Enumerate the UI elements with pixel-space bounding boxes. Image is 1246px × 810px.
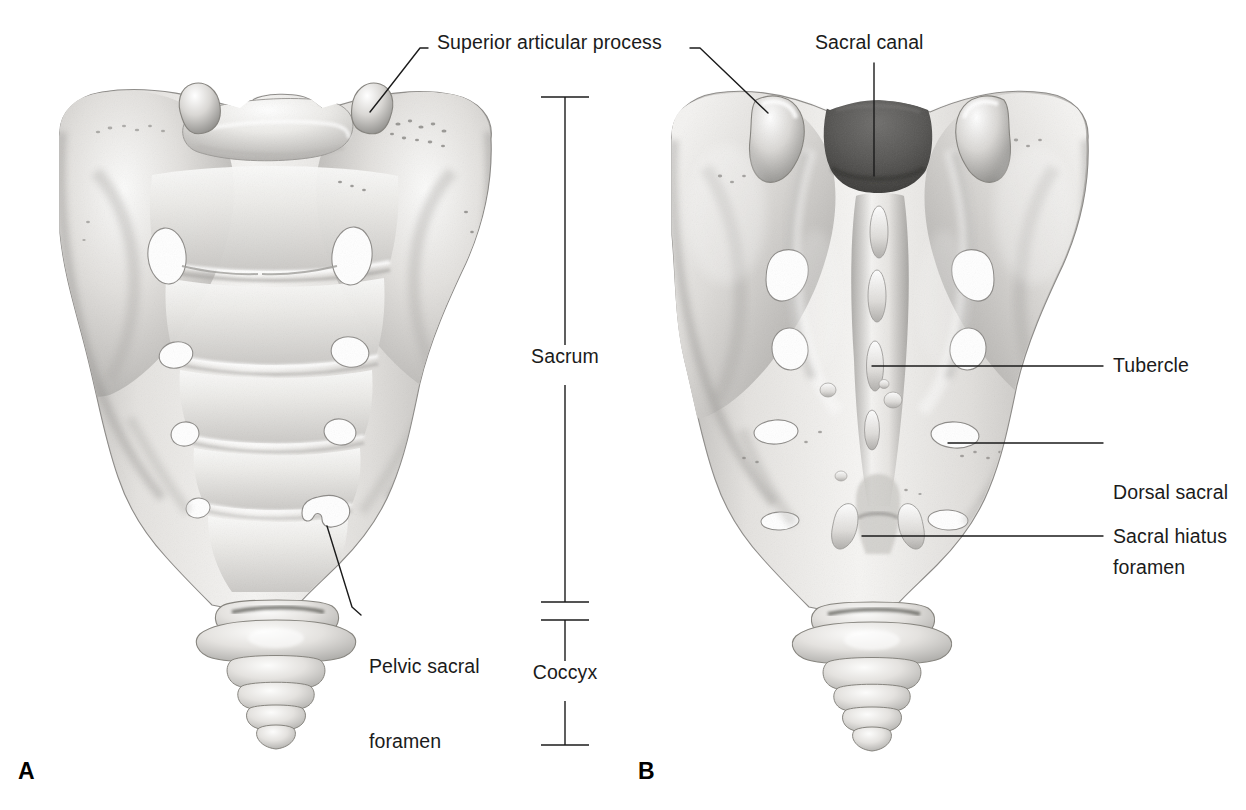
label-pelvic-sacral-foramen-line2: foramen xyxy=(369,729,480,754)
extent-brackets xyxy=(541,97,589,745)
panel-letter-a: A xyxy=(18,758,35,785)
coccyx-anterior xyxy=(196,600,355,749)
panel-letter-b: B xyxy=(638,758,655,785)
coccyx-posterior xyxy=(792,602,951,751)
label-pelvic-sacral-foramen: Pelvic sacral foramen xyxy=(369,604,480,804)
bracket-label-coccyx: Coccyx xyxy=(514,660,616,685)
label-tubercle: Tubercle xyxy=(1113,353,1189,378)
coccyx-tip xyxy=(257,725,296,749)
label-dorsal-sacral-foramen-line2: foramen xyxy=(1113,555,1228,580)
illustration-canvas xyxy=(0,0,1246,810)
superior-articular-process-left xyxy=(179,83,220,134)
label-sacral-canal: Sacral canal xyxy=(815,30,924,55)
label-sacral-hiatus: Sacral hiatus xyxy=(1113,524,1227,549)
coccyx-tip xyxy=(853,727,892,751)
sacrum-posterior-illustration xyxy=(650,80,1120,751)
bracket-label-sacrum: Sacrum xyxy=(514,344,616,369)
label-pelvic-sacral-foramen-line1: Pelvic sacral xyxy=(369,654,480,679)
label-dorsal-sacral-foramen-line1: Dorsal sacral xyxy=(1113,480,1228,505)
anatomy-figure: Superior articular process Sacral canal … xyxy=(0,0,1246,810)
label-superior-articular-process: Superior articular process xyxy=(437,30,662,55)
